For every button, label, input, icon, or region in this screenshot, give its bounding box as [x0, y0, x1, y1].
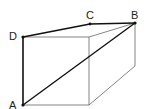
edge-bottom-right-slant [89, 66, 135, 105]
vertex-C [89, 23, 92, 26]
vertex-B [133, 21, 136, 24]
label-A: A [9, 99, 17, 109]
label-C: C [86, 9, 94, 21]
edge-A-B [23, 23, 135, 105]
cuboid-diagram: D C B A [0, 0, 149, 109]
edge-C-B [90, 23, 135, 24]
edge-D-C [23, 24, 90, 37]
vertex-A [21, 103, 24, 106]
label-D: D [9, 30, 17, 42]
edge-top-right-slant [89, 23, 135, 37]
vertex-D [21, 35, 24, 38]
label-B: B [131, 9, 138, 21]
